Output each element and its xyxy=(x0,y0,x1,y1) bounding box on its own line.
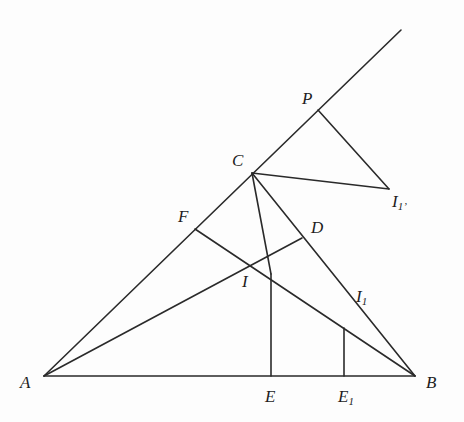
label-b: B xyxy=(426,374,436,391)
label-p: P xyxy=(302,90,312,107)
segment-p-i1p xyxy=(318,110,389,189)
label-c: C xyxy=(232,152,243,169)
label-e1: E1 xyxy=(338,388,354,407)
label-i1-prime: I1’ xyxy=(392,193,407,212)
geometry-diagram: A B C P I1’ F D I I1 E E1 xyxy=(0,0,464,422)
label-a: A xyxy=(20,374,30,391)
label-d: D xyxy=(311,219,323,236)
label-i: I xyxy=(242,273,248,290)
label-i1: I1 xyxy=(356,288,367,307)
bisector-ad xyxy=(44,238,302,376)
bisector-bf xyxy=(195,229,415,376)
segment-c-i1p xyxy=(252,173,389,189)
label-f: F xyxy=(178,208,188,225)
line-a-top xyxy=(44,30,401,376)
label-e: E xyxy=(265,388,275,405)
side-cb xyxy=(252,173,415,376)
